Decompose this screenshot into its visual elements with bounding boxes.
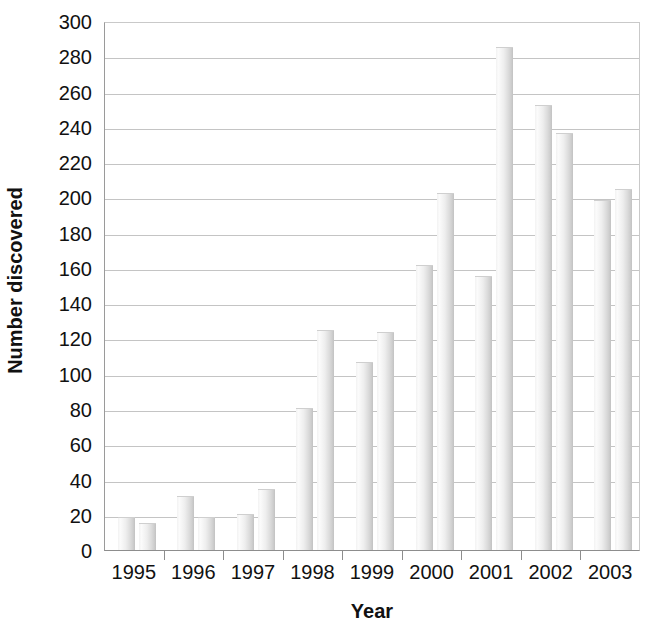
y-axis-title: Number discovered	[0, 0, 30, 560]
y-tick-label: 280	[59, 47, 92, 67]
x-tick-mark	[402, 551, 403, 560]
y-tick-label: 20	[70, 506, 92, 526]
y-axis-tick-labels: 3002802602402202001801601401201008060402…	[30, 22, 100, 551]
bar	[416, 265, 433, 550]
bar	[317, 330, 334, 550]
y-axis-title-text: Number discovered	[4, 187, 27, 374]
bar	[258, 489, 275, 550]
bar	[535, 105, 552, 550]
bar	[475, 276, 492, 550]
bar	[177, 496, 194, 550]
y-tick-label: 220	[59, 153, 92, 173]
bar	[198, 517, 215, 550]
x-axis-title: Year	[104, 600, 640, 623]
x-tick-label: 1999	[350, 562, 395, 582]
x-tick-mark	[580, 551, 581, 560]
bar	[296, 408, 313, 550]
y-tick-label: 160	[59, 259, 92, 279]
x-tick-mark	[461, 551, 462, 560]
y-tick-label: 120	[59, 329, 92, 349]
x-tick-mark	[521, 551, 522, 560]
x-tick-label: 2002	[528, 562, 573, 582]
x-tick-label: 1995	[112, 562, 157, 582]
y-tick-label: 0	[81, 541, 92, 561]
x-tick-mark	[223, 551, 224, 560]
x-tick-label: 2001	[469, 562, 514, 582]
y-tick-label: 140	[59, 294, 92, 314]
y-tick-label: 80	[70, 400, 92, 420]
bar	[556, 133, 573, 550]
y-tick-label: 60	[70, 435, 92, 455]
x-tick-label: 1997	[231, 562, 276, 582]
bar	[118, 517, 135, 550]
y-tick-label: 100	[59, 365, 92, 385]
bar	[615, 189, 632, 550]
y-tick-label: 300	[59, 12, 92, 32]
x-tick-label: 2003	[588, 562, 633, 582]
x-tick-label: 1996	[171, 562, 216, 582]
bar	[496, 47, 513, 551]
bar	[594, 200, 611, 550]
x-tick-mark	[283, 551, 284, 560]
bar	[237, 514, 254, 550]
bar	[139, 523, 156, 551]
bars-layer	[105, 23, 639, 550]
y-tick-label: 200	[59, 188, 92, 208]
plot-area	[104, 22, 640, 551]
y-tick-label: 260	[59, 83, 92, 103]
y-tick-label: 240	[59, 118, 92, 138]
bar	[356, 362, 373, 550]
y-tick-label: 180	[59, 224, 92, 244]
y-tick-label: 40	[70, 471, 92, 491]
x-tick-label: 2000	[409, 562, 454, 582]
bar-chart-figure: Number discovered 3002802602402202001801…	[0, 0, 657, 638]
x-axis-tick-labels: 199519961997199819992000200120022003	[104, 562, 640, 592]
x-tick-mark	[342, 551, 343, 560]
bar	[437, 193, 454, 550]
bar	[377, 332, 394, 550]
x-tick-label: 1998	[290, 562, 335, 582]
x-tick-mark	[164, 551, 165, 560]
